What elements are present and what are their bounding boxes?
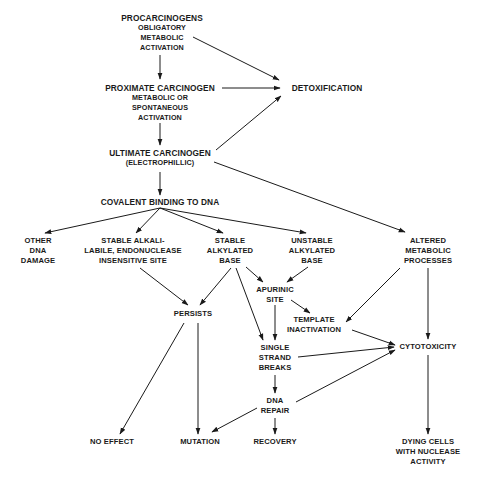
node-persists: PERSISTS [174, 309, 212, 319]
node-stable-alkylated-base: STABLE ALKYLATED BASE [207, 236, 253, 266]
edge-ultimate-detoxification [216, 96, 281, 150]
node-line: NO EFFECT [90, 437, 134, 447]
node-line: TEMPLATE [287, 315, 341, 325]
edge-template-cytotoxicity [352, 330, 395, 345]
node-line: DYING CELLS [396, 437, 461, 447]
node-dna-repair: DNA REPAIR [261, 396, 290, 416]
node-line: REPAIR [261, 406, 290, 416]
node-line: WITH NUCLEASE [396, 447, 461, 457]
edge-covalent-unstable [160, 208, 306, 233]
edge-procarcinogens-detoxification [193, 37, 279, 80]
node-other-dna-damage: OTHER DNA DAMAGE [21, 236, 55, 266]
node-line: OTHER [21, 236, 55, 246]
node-line: ALKYLATED [207, 246, 253, 256]
edge-alkali-persists [140, 268, 188, 305]
edge-persists-noeffect [120, 323, 184, 434]
node-procarcinogens: PROCARCINOGENS OBLIGATORY METABOLIC ACTI… [121, 13, 203, 53]
node-line: STABLE [207, 236, 253, 246]
node-line: SITE [256, 295, 294, 305]
node-subtitle: ACTIVATION [105, 113, 215, 123]
node-subtitle: METABOLIC OR [105, 93, 215, 103]
node-line: METABOLIC [404, 246, 452, 256]
edge-altered-template [346, 268, 400, 322]
edge-single-cytotoxicity [298, 347, 394, 357]
node-line: SINGLE [259, 343, 292, 353]
node-line: INSENSITIVE SITE [84, 256, 181, 266]
node-single-strand-breaks: SINGLE STRAND BREAKS [259, 343, 292, 373]
node-cytotoxicity: CYTOTOXICITY [399, 342, 456, 352]
node-stable-alkali-labile: STABLE ALKALI- LABILE, ENDONUCLEASE INSE… [84, 236, 181, 266]
node-subtitle: SPONTANEOUS [105, 103, 215, 113]
node-line: CYTOTOXICITY [399, 342, 456, 352]
edge-unstable-apurinic [287, 267, 308, 282]
node-line: STABLE ALKALI- [84, 236, 181, 246]
edge-covalent-stable [160, 208, 223, 233]
node-line: PROCESSES [404, 256, 452, 266]
node-covalent-binding: COVALENT BINDING TO DNA [101, 197, 220, 207]
node-ultimate-carcinogen: ULTIMATE CARCINOGEN (ELECTROPHILLIC) [109, 148, 211, 168]
node-proximate-carcinogen: PROXIMATE CARCINOGEN METABOLIC OR SPONTA… [105, 83, 215, 123]
node-line: BASE [289, 256, 335, 266]
edge-covalent-other [45, 208, 160, 233]
node-line: UNSTABLE [289, 236, 335, 246]
node-title: COVALENT BINDING TO DNA [101, 197, 220, 207]
edge-repair-mutation [212, 408, 257, 432]
node-title: DETOXIFICATION [292, 83, 363, 93]
node-line: BASE [207, 256, 253, 266]
edge-stable-apurinic [246, 267, 263, 282]
edge-covalent-alkali [136, 208, 160, 233]
node-line: INACTIVATION [287, 325, 341, 335]
node-line: RECOVERY [253, 437, 296, 447]
node-no-effect: NO EFFECT [90, 437, 134, 447]
node-line: MUTATION [180, 437, 220, 447]
node-subtitle: ACTIVATION [121, 43, 203, 53]
node-subtitle: METABOLIC [121, 33, 203, 43]
edge-repair-cytotoxicity [296, 350, 395, 402]
node-dying-cells: DYING CELLS WITH NUCLEASE ACTIVITY [396, 437, 461, 467]
node-title: PROCARCINOGENS [121, 13, 203, 23]
edge-ultimate-altered [214, 162, 405, 232]
edge-stable-persists [200, 268, 231, 305]
node-line: STRAND [259, 353, 292, 363]
node-apurinic-site: APURINIC SITE [256, 285, 294, 305]
node-altered-metabolic-processes: ALTERED METABOLIC PROCESSES [404, 236, 452, 266]
node-line: ALTERED [404, 236, 452, 246]
node-line: APURINIC [256, 285, 294, 295]
node-subtitle: OBLIGATORY [121, 23, 203, 33]
node-title: ULTIMATE CARCINOGEN [109, 148, 211, 158]
node-line: PERSISTS [174, 309, 212, 319]
node-recovery: RECOVERY [253, 437, 296, 447]
node-line: DAMAGE [21, 256, 55, 266]
edge-apurinic-template [291, 300, 310, 313]
node-line: BREAKS [259, 363, 292, 373]
node-line: DNA [21, 246, 55, 256]
node-template-inactivation: TEMPLATE INACTIVATION [287, 315, 341, 335]
node-line: ALKYLATED [289, 246, 335, 256]
node-line: LABILE, ENDONUCLEASE [84, 246, 181, 256]
node-line: ACTIVITY [396, 457, 461, 467]
carcinogenesis-flowchart: PROCARCINOGENS OBLIGATORY METABOLIC ACTI… [0, 0, 478, 481]
node-title: PROXIMATE CARCINOGEN [105, 83, 215, 93]
node-mutation: MUTATION [180, 437, 220, 447]
node-detoxification: DETOXIFICATION [292, 83, 363, 93]
node-unstable-alkylated-base: UNSTABLE ALKYLATED BASE [289, 236, 335, 266]
node-subtitle: (ELECTROPHILLIC) [109, 158, 211, 168]
node-line: DNA [261, 396, 290, 406]
